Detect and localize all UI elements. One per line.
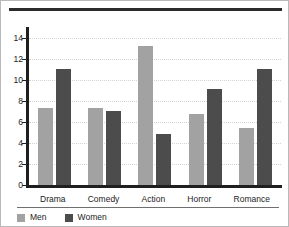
- bar-men-horror[interactable]: [189, 114, 204, 185]
- top-divider-rule: [9, 8, 282, 11]
- plot-area: 02468101214: [1, 19, 289, 194]
- bar-group: [189, 27, 222, 185]
- chart-page: 02468101214 DramaComedyActionHorrorRoman…: [0, 0, 289, 227]
- y-axis-tick-labels: 02468101214: [1, 19, 25, 194]
- x-axis-spine: [26, 185, 282, 188]
- y-axis-tick-mark: [22, 101, 27, 102]
- y-axis-tick-mark: [22, 185, 27, 186]
- y-axis-tick-mark: [22, 143, 27, 144]
- legend-item-men[interactable]: Men: [17, 213, 47, 222]
- plot-canvas: [29, 27, 281, 185]
- legend-label: Women: [78, 213, 107, 222]
- y-axis-tick-mark: [22, 122, 27, 123]
- bar-women-comedy[interactable]: [106, 111, 121, 185]
- chart-legend: MenWomen: [17, 213, 107, 222]
- y-axis-tick-mark: [22, 164, 27, 165]
- x-axis-label-horror: Horror: [187, 194, 211, 204]
- x-axis-category-labels: DramaComedyActionHorrorRomance: [29, 194, 281, 204]
- bar-men-comedy[interactable]: [88, 108, 103, 185]
- x-axis-label-drama: Drama: [40, 194, 66, 204]
- y-axis-tick-mark: [22, 38, 27, 39]
- bar-men-romance[interactable]: [239, 128, 254, 185]
- bar-men-action[interactable]: [138, 46, 153, 185]
- y-axis-tick-mark: [22, 59, 27, 60]
- legend-item-women[interactable]: Women: [65, 213, 107, 222]
- women-swatch: [65, 214, 73, 222]
- bar-group: [88, 27, 121, 185]
- legend-divider-rule: [17, 207, 279, 208]
- x-axis-label-comedy: Comedy: [88, 194, 120, 204]
- bar-women-drama[interactable]: [56, 69, 71, 185]
- bar-women-action[interactable]: [156, 134, 171, 185]
- y-axis-tick-mark: [22, 80, 27, 81]
- bar-women-horror[interactable]: [207, 89, 222, 185]
- x-axis-label-romance: Romance: [234, 194, 270, 204]
- bar-group: [38, 27, 71, 185]
- bar-group: [239, 27, 272, 185]
- bar-men-drama[interactable]: [38, 108, 53, 185]
- legend-label: Men: [30, 213, 47, 222]
- men-swatch: [17, 214, 25, 222]
- x-axis-label-action: Action: [142, 194, 166, 204]
- bar-women-romance[interactable]: [257, 69, 272, 185]
- bar-groups: [29, 27, 281, 185]
- bar-group: [138, 27, 171, 185]
